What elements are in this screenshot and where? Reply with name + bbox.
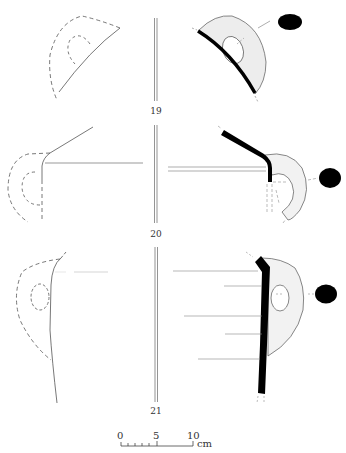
vessel-21-exterior [16,252,108,403]
vessel-21-section [173,252,337,403]
center-axis-19 [155,18,158,101]
scale-tick-0: 0 [117,430,123,441]
vessel-19-section [192,14,302,102]
scale-unit: cm [197,438,212,449]
scale-tick-5: 5 [153,430,159,441]
center-axis-21 [155,247,158,402]
vessel-number-21: 21 [150,406,161,416]
center-axis-20 [155,125,158,223]
vessel-20-exterior [8,127,143,222]
vessel-number-19: 19 [150,106,161,116]
vessel-20-section [168,126,341,223]
scale-bar [121,441,193,446]
drawing-canvas [0,0,346,453]
vessel-19-exterior [50,16,120,100]
vessel-number-20: 20 [150,229,161,239]
